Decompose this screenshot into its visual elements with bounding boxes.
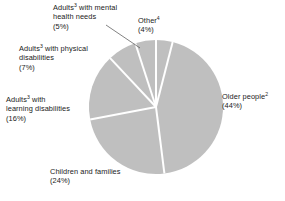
slice-value-older: (44%) — [222, 101, 242, 110]
slice-value-mental-health: (5%) — [53, 22, 69, 31]
slice-label-physical-disabilities: Adults3 with physical disabilities (7%) — [19, 44, 88, 72]
slice-label-physical-line1-tail: with physical — [43, 44, 88, 53]
slice-label-learning-line2: learning disabilities — [6, 104, 70, 113]
slice-label-older-line1: Older people — [222, 92, 265, 101]
slice-value-learning: (16%) — [6, 114, 26, 123]
footnote-marker-older: 2 — [265, 91, 268, 97]
slice-value-children: (24%) — [50, 176, 70, 185]
slice-label-other-line1: Other — [138, 16, 157, 25]
slice-label-physical-line2: disabilities — [19, 53, 54, 62]
slice-label-other: Other4 (4%) — [138, 16, 160, 35]
slice-label-physical-line1: Adults — [19, 44, 40, 53]
slice-label-older-people: Older people2 (44%) — [222, 92, 268, 111]
slice-label-mental-health-line1: Adults — [53, 3, 74, 12]
slice-label-learning-line1: Adults — [6, 95, 27, 104]
slice-label-children-and-families: Children and families (24%) — [50, 167, 121, 186]
slice-label-mental-health-line2: health needs — [53, 12, 96, 21]
slice-label-learning-line1-tail: with — [30, 95, 46, 104]
slice-value-physical: (7%) — [19, 63, 35, 72]
slice-value-other: (4%) — [138, 25, 154, 34]
slice-label-learning-disabilities: Adults3 with learning disabilities (16%) — [6, 95, 70, 123]
slice-label-mental-health: Adults3 with mental health needs (5%) — [53, 3, 117, 31]
footnote-marker-other: 4 — [157, 15, 160, 21]
slice-label-mental-health-line1-tail: with mental — [77, 3, 117, 12]
slice-label-children-line1: Children and families — [50, 167, 121, 176]
pie-chart-figure: Adults3 with mental health needs (5%) Ot… — [0, 0, 285, 201]
